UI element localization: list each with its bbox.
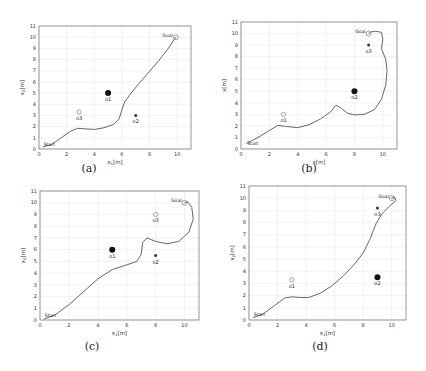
svg-text:0: 0 [243,317,246,323]
svg-text:3: 3 [243,280,246,286]
svg-text:Start: Start [254,312,265,317]
svg-text:1: 1 [243,305,246,311]
svg-text:4: 4 [304,322,307,328]
obstacle-o3: o3 [374,206,380,217]
svg-text:o3: o3 [374,211,380,217]
svg-text:6: 6 [243,244,246,250]
axes-frame [249,186,406,320]
plot-d-svg: 024681001234567891011x1[m]x2[m]o1o2o3Sta… [0,0,426,371]
svg-text:2: 2 [243,292,246,298]
svg-text:11: 11 [240,183,246,189]
svg-text:9: 9 [243,207,246,213]
svg-text:5: 5 [243,256,246,262]
svg-text:10: 10 [389,322,395,328]
svg-text:Goal: Goal [378,194,388,199]
caption-d: (d) [300,340,340,353]
svg-text:8: 8 [243,219,246,225]
svg-text:8: 8 [362,322,365,328]
svg-text:10: 10 [240,195,246,201]
subplot-d: 024681001234567891011x1[m]x2[m]o1o2o3Sta… [0,0,426,371]
svg-text:o2: o2 [374,280,380,286]
svg-text:2: 2 [276,322,279,328]
svg-text:7: 7 [243,231,246,237]
y-axis-label: x2[m] [229,245,236,260]
tick-labels: 024681001234567891011 [240,183,395,328]
svg-text:6: 6 [333,322,336,328]
x-axis-label: x1[m] [320,330,335,337]
obstacle-o2: o2 [374,274,380,286]
svg-text:o1: o1 [289,283,295,289]
svg-text:0: 0 [247,322,250,328]
obstacle-o1: o1 [289,278,295,289]
grid [249,186,406,320]
start-marker: Start [254,312,265,317]
svg-text:4: 4 [243,268,246,274]
